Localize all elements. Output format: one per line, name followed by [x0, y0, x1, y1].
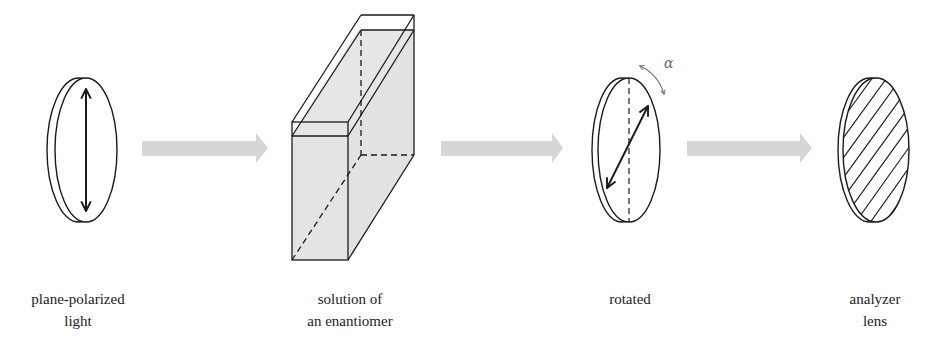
label-line: solution of: [270, 288, 430, 310]
label-line: an enantiomer: [270, 310, 430, 332]
label-line: light: [0, 310, 156, 332]
rotation-angle-symbol: α: [664, 55, 674, 71]
polarizer-lens: [47, 78, 117, 222]
label-line: lens: [820, 310, 930, 332]
label-line: plane-polarized: [0, 288, 156, 310]
flow-arrow-icon: [142, 133, 268, 163]
analyzer-lens: [820, 28, 930, 244]
label-analyzer-lens: analyzer lens: [820, 288, 930, 332]
flow-arrow-icon: [441, 133, 563, 163]
rotated-lens: α: [592, 55, 674, 222]
label-solution-of-enantiomer: solution of an enantiomer: [270, 288, 430, 332]
label-plane-polarized-light: plane-polarized light: [0, 288, 156, 332]
label-line: analyzer: [820, 288, 930, 310]
flow-arrow-icon: [687, 133, 812, 163]
label-rotated: rotated: [570, 288, 690, 310]
cuvette: [292, 15, 414, 260]
label-line: rotated: [570, 288, 690, 310]
